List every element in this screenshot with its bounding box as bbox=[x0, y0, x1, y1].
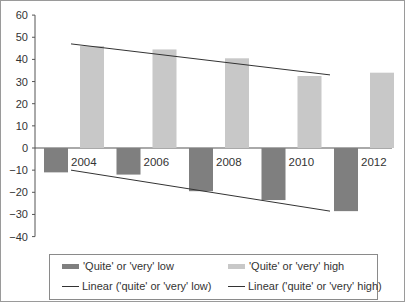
legend-label-linear-high: Linear ('quite' or 'very' high) bbox=[248, 280, 382, 292]
y-tick-label: 50 bbox=[16, 31, 28, 43]
bar-low bbox=[262, 148, 286, 200]
y-tick-label: −40 bbox=[9, 231, 28, 243]
legend-item-linear-high: Linear ('quite' or 'very' high) bbox=[228, 280, 382, 292]
bar-high bbox=[153, 49, 177, 148]
legend-swatch-low-icon bbox=[62, 264, 79, 269]
y-tick-label: 30 bbox=[16, 76, 28, 88]
legend: 'Quite' or 'very' low 'Quite' or 'very' … bbox=[49, 254, 378, 300]
legend-line-high-icon bbox=[228, 286, 245, 287]
legend-swatch-high-icon bbox=[228, 264, 245, 269]
bar-low bbox=[334, 148, 358, 211]
y-tick-label: 10 bbox=[16, 120, 28, 132]
x-category-label: 2004 bbox=[71, 156, 97, 168]
legend-item-linear-low: Linear ('quite' or 'very' low) bbox=[62, 280, 211, 292]
x-category-label: 2010 bbox=[289, 156, 315, 168]
legend-label-high: 'Quite' or 'very' high bbox=[249, 260, 344, 272]
y-tick-label: 60 bbox=[16, 9, 28, 21]
y-tick-label: 0 bbox=[22, 142, 28, 154]
bar-high bbox=[80, 46, 104, 148]
y-tick-label: −30 bbox=[9, 208, 28, 220]
trendline-high bbox=[71, 44, 330, 75]
bar-high bbox=[225, 58, 249, 148]
legend-item-low: 'Quite' or 'very' low bbox=[62, 260, 174, 272]
legend-line-low-icon bbox=[62, 286, 79, 287]
y-tick-label: 20 bbox=[16, 98, 28, 110]
bar-high bbox=[298, 76, 322, 148]
bar-high bbox=[370, 73, 394, 148]
bar-low bbox=[44, 148, 68, 172]
bar-low bbox=[189, 148, 213, 191]
legend-label-low: 'Quite' or 'very' low bbox=[83, 260, 174, 272]
y-tick-label: −10 bbox=[9, 164, 28, 176]
x-category-label: 2008 bbox=[216, 156, 242, 168]
x-category-label: 2006 bbox=[144, 156, 170, 168]
x-category-label: 2012 bbox=[361, 156, 387, 168]
bar-low bbox=[117, 148, 141, 175]
y-tick-label: 40 bbox=[16, 53, 28, 65]
legend-item-high: 'Quite' or 'very' high bbox=[228, 260, 344, 272]
y-tick-label: −20 bbox=[9, 186, 28, 198]
legend-label-linear-low: Linear ('quite' or 'very' low) bbox=[82, 280, 211, 292]
